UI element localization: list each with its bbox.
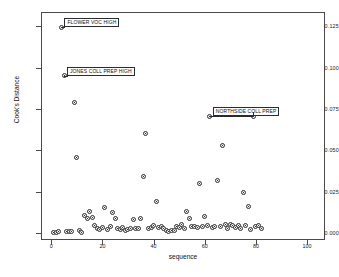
annotation-leader-stem — [253, 112, 254, 116]
y-tick-mark — [36, 150, 41, 151]
x-tick-mark — [307, 240, 308, 245]
y-tick-mark — [36, 192, 41, 193]
plot-area — [41, 12, 325, 240]
y-tick-label: 0.100 — [305, 65, 339, 71]
y-tick-mark — [36, 68, 41, 69]
data-point — [141, 174, 146, 179]
data-point — [72, 100, 77, 105]
y-tick-label: 0.075 — [305, 106, 339, 112]
data-point — [108, 224, 113, 229]
data-point — [131, 217, 136, 222]
annotation-label: NORTHSIDE COLL PREP — [213, 107, 280, 116]
annotation-leader-line — [61, 27, 65, 28]
annotation-label: FLOWER VOC HIGH — [64, 18, 119, 27]
y-tick-mark — [36, 26, 41, 27]
annotation-leader-line — [210, 116, 253, 117]
y-tick-label: 0.050 — [305, 147, 339, 153]
data-point — [182, 226, 187, 231]
data-point — [90, 215, 95, 220]
annotation-leader-line — [64, 76, 68, 77]
data-point — [87, 209, 92, 214]
scatter-chart: Cook's Distance sequence 0.0000.0250.050… — [0, 0, 339, 277]
data-point — [218, 224, 223, 229]
x-tick-mark — [205, 240, 206, 245]
data-point — [110, 210, 115, 215]
x-tick-mark — [102, 240, 103, 245]
data-point — [195, 225, 200, 230]
annotation-label: JONES COLL PREP HIGH — [67, 67, 135, 76]
data-point — [85, 216, 90, 221]
data-point — [113, 216, 118, 221]
y-tick-label: 0.025 — [305, 189, 339, 195]
x-tick-mark — [51, 240, 52, 245]
y-tick-mark — [36, 233, 41, 234]
x-tick-mark — [154, 240, 155, 245]
data-point — [220, 143, 225, 148]
data-point — [200, 224, 205, 229]
x-axis-title: sequence — [41, 253, 325, 260]
y-tick-label: 0.000 — [305, 230, 339, 236]
y-tick-mark — [36, 109, 41, 110]
x-tick-mark — [256, 240, 257, 245]
data-point — [136, 226, 141, 231]
y-tick-label: 0.125 — [305, 23, 339, 29]
data-point — [259, 226, 264, 231]
data-point — [241, 190, 246, 195]
y-axis-title: Cook's Distance — [13, 52, 20, 148]
